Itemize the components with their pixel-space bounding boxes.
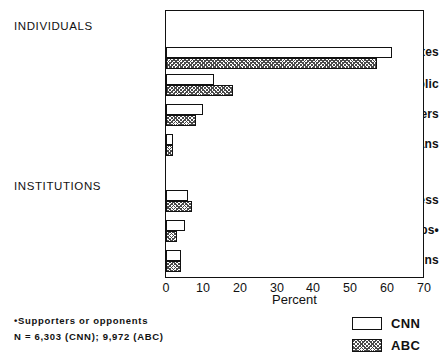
- bar-abc-organized-groups: [166, 231, 177, 242]
- bar-abc-voters-public: [166, 85, 233, 96]
- legend-swatch-cnn: [352, 317, 382, 330]
- legend-swatch-abc: [352, 339, 382, 352]
- bar-abc-press: [166, 201, 192, 212]
- group-heading-institutions: INSTITUTIONS: [14, 180, 101, 192]
- bar-abc-candidates: [166, 58, 377, 69]
- bar-cnn-nonpartisans: [166, 134, 173, 145]
- bar-cnn-voters-public: [166, 74, 214, 85]
- footnote-supporters: •Supporters or opponents: [14, 315, 148, 326]
- bar-cnn-candidates: [166, 47, 392, 58]
- bar-abc-campaign-workers: [166, 115, 196, 126]
- legend-item-abc: ABC: [352, 334, 420, 356]
- bar-cnn-campaign-workers: [166, 104, 203, 115]
- bar-cnn-campaigns: [166, 250, 181, 261]
- chart-page: INDIVIDUALS Candidates Voters/Public Cam…: [0, 0, 439, 361]
- bar-cnn-organized-groups: [166, 220, 185, 231]
- legend: CNN ABC: [352, 312, 420, 356]
- xaxis-title: Percent: [165, 292, 424, 307]
- bar-cnn-press: [166, 190, 188, 201]
- group-heading-individuals: INDIVIDUALS: [14, 20, 93, 32]
- plot-area: [165, 10, 424, 278]
- legend-item-cnn: CNN: [352, 312, 420, 334]
- footnote-sample-size: N = 6,303 (CNN); 9,972 (ABC): [14, 331, 164, 342]
- bar-abc-nonpartisans: [166, 145, 173, 156]
- bar-abc-campaigns: [166, 261, 181, 272]
- legend-label-cnn: CNN: [391, 316, 420, 331]
- legend-label-abc: ABC: [391, 338, 420, 353]
